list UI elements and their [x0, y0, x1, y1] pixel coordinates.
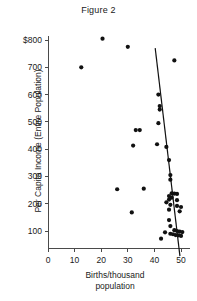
data-point — [179, 234, 183, 238]
data-point — [100, 37, 104, 41]
y-tick-label: 300 — [28, 171, 42, 181]
data-point — [179, 205, 183, 209]
data-point — [79, 65, 83, 69]
data-point — [115, 187, 119, 191]
data-point — [175, 192, 179, 196]
data-point — [159, 237, 163, 241]
y-tick-label: 100 — [28, 226, 42, 236]
data-point — [172, 58, 176, 62]
data-point — [155, 142, 159, 146]
data-point — [167, 208, 171, 212]
y-axis: 100200300400500600700$800 — [23, 35, 48, 248]
trend-line — [155, 48, 180, 256]
data-point — [126, 45, 130, 49]
x-tick-label: 0 — [46, 255, 51, 265]
y-tick-label: 200 — [28, 199, 42, 209]
data-points — [79, 37, 184, 241]
data-point — [175, 198, 179, 202]
y-tick-label: $800 — [23, 35, 42, 45]
data-point — [158, 107, 162, 111]
data-point — [131, 144, 135, 148]
scatter-plot: 100200300400500600700$800 01020304050 — [0, 0, 197, 301]
x-tick-label: 50 — [176, 255, 186, 265]
data-point — [178, 209, 182, 213]
data-point — [130, 210, 134, 214]
x-tick-label: 20 — [96, 255, 106, 265]
y-tick-label: 400 — [28, 144, 42, 154]
x-axis: 01020304050 — [46, 248, 190, 265]
data-point — [168, 203, 172, 207]
data-point — [167, 218, 171, 222]
regression-line — [155, 48, 180, 256]
y-tick-label: 700 — [28, 62, 42, 72]
x-tick-label: 40 — [150, 255, 160, 265]
data-point — [180, 230, 184, 234]
data-point — [134, 128, 138, 132]
data-point — [164, 200, 168, 204]
data-point — [168, 224, 172, 228]
data-point — [142, 187, 146, 191]
data-point — [138, 128, 142, 132]
figure-container: Figure 2 Per Capita Income (Entire Popul… — [0, 0, 197, 301]
data-point — [175, 204, 179, 208]
x-tick-label: 30 — [123, 255, 133, 265]
y-tick-label: 500 — [28, 117, 42, 127]
y-tick-label: 600 — [28, 90, 42, 100]
x-tick-label: 10 — [70, 255, 80, 265]
data-point — [163, 230, 167, 234]
data-point — [156, 121, 160, 125]
data-point — [156, 92, 160, 96]
